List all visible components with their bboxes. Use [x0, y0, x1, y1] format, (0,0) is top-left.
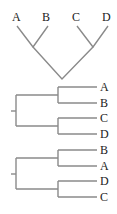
inner-branches [16, 95, 58, 126]
leaf-label: D [102, 10, 111, 24]
branch-cd [77, 26, 108, 47]
leaf-label: C [100, 111, 108, 125]
leaf-label: B [100, 96, 108, 110]
tree-horizontal-1: A B C D [11, 80, 109, 141]
leaf-label: C [100, 190, 108, 204]
branch-root [33, 47, 93, 79]
leaf-label: B [100, 143, 108, 157]
phylogenetic-trees-figure: A B C D A B C D B A D C [0, 0, 117, 214]
leaf-label: A [100, 159, 109, 173]
leaf-label: D [100, 174, 109, 188]
leaf-label: C [72, 10, 80, 24]
clade-cd [58, 118, 97, 134]
leaf-label: A [100, 80, 109, 94]
inner-branches [16, 158, 58, 189]
clade-ba [58, 150, 97, 166]
branch-ab [17, 26, 48, 47]
tree-vertical: A B C D [12, 10, 111, 79]
tree-horizontal-2: B A D C [11, 143, 109, 204]
clade-ab [58, 87, 97, 103]
leaf-label: A [12, 10, 21, 24]
leaf-label: B [42, 10, 50, 24]
clade-dc [58, 181, 97, 197]
leaf-label: D [100, 127, 109, 141]
